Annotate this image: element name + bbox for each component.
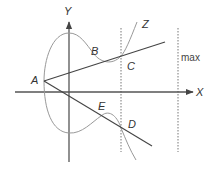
curve-z [44,22,137,160]
point-d-label: D [128,118,136,130]
point-b-label: B [91,45,98,57]
diagram: Y X A B C D E Z max [0,0,213,172]
max-label: max [181,52,200,63]
line-a-c [44,42,165,81]
point-e-label: E [98,100,106,112]
point-c-label: C [127,60,135,72]
line-a-d [44,81,152,146]
y-axis-label: Y [64,5,72,17]
x-axis-label: X [195,86,204,98]
point-a-label: A [30,74,38,86]
curve-z-label: Z [141,18,150,30]
